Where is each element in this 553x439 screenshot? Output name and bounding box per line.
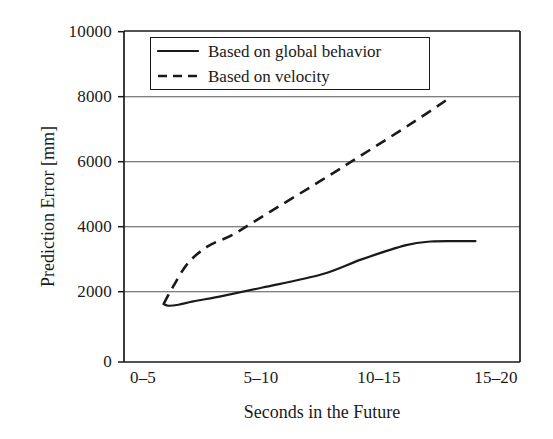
legend-entry-global-behavior: Based on global behavior xyxy=(157,39,381,63)
y-axis-ticks xyxy=(118,32,124,362)
legend-label-global-behavior: Based on global behavior xyxy=(208,43,381,60)
x-tick-label-15-20: 15–20 xyxy=(474,368,518,388)
gridlines xyxy=(124,97,520,292)
chart-figure: 10000 8000 6000 4000 2000 0 0–5 5–10 10–… xyxy=(0,0,553,439)
x-tick-label-0-5: 0–5 xyxy=(130,368,156,388)
legend: Based on global behavior Based on veloci… xyxy=(150,37,430,90)
legend-dashed-line-icon xyxy=(157,69,199,83)
x-tick-label-5-10: 5–10 xyxy=(244,368,279,388)
x-tick-label-10-15: 10–15 xyxy=(357,368,401,388)
x-axis-title: Seconds in the Future xyxy=(124,402,520,423)
y-axis-title: Prediction Error [mm] xyxy=(38,97,59,317)
legend-label-velocity: Based on velocity xyxy=(208,68,330,85)
legend-entry-velocity: Based on velocity xyxy=(157,64,330,88)
y-tick-label-0: 0 xyxy=(28,352,112,372)
y-tick-label-10000: 10000 xyxy=(28,22,112,42)
legend-solid-line-icon xyxy=(157,44,199,58)
series-line-based-on-global-behavior xyxy=(164,241,476,306)
series-line-based-on-velocity xyxy=(164,97,451,304)
